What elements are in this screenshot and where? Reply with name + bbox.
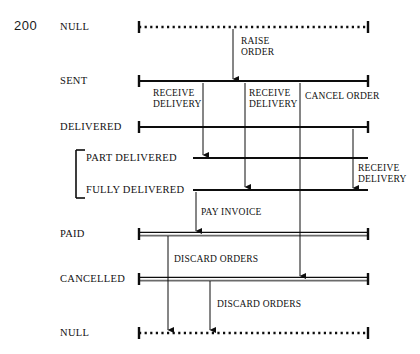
state-label-null-top: NULL bbox=[60, 21, 89, 32]
transition-label-raise-order: RAISE ORDER bbox=[241, 36, 274, 57]
state-line-delivered bbox=[139, 121, 368, 133]
part-fully-delivered-bracket bbox=[76, 150, 85, 198]
transition-label-receive-delivery-2: RECEIVE DELIVERY bbox=[249, 88, 298, 109]
diagram-canvas bbox=[0, 0, 420, 354]
transition-label-receive-delivery-1: RECEIVE DELIVERY bbox=[153, 88, 202, 109]
state-label-sent: SENT bbox=[60, 75, 87, 86]
transition-label-pay-invoice: PAY INVOICE bbox=[201, 207, 262, 218]
state-label-paid: PAID bbox=[60, 228, 85, 239]
state-label-part-delivered: PART DELIVERED bbox=[86, 152, 177, 163]
state-label-cancelled: CANCELLED bbox=[60, 273, 125, 284]
transition-label-discard-orders-2: DISCARD ORDERS bbox=[217, 299, 301, 310]
state-label-delivered: DELIVERED bbox=[60, 121, 122, 132]
grouping-bracket bbox=[76, 150, 85, 198]
state-transition-diagram: 200 NULLSENTDELIVEREDPART DELIVEREDFULLY… bbox=[0, 0, 420, 354]
state-label-fully-delivered: FULLY DELIVERED bbox=[86, 184, 184, 195]
state-line-cancelled bbox=[139, 273, 368, 285]
transition-label-discard-orders-1: DISCARD ORDERS bbox=[174, 254, 258, 265]
state-line-null-top bbox=[139, 21, 368, 33]
state-line-null-bottom bbox=[139, 327, 368, 339]
state-lines-group bbox=[139, 21, 368, 339]
transition-label-cancel-order: CANCEL ORDER bbox=[305, 91, 380, 102]
state-line-paid bbox=[139, 228, 368, 240]
state-line-sent bbox=[139, 75, 368, 87]
state-label-null-bottom: NULL bbox=[60, 327, 89, 338]
transition-label-receive-delivery-3: RECEIVE DELIVERY bbox=[358, 163, 407, 184]
transition-lines-group bbox=[168, 29, 353, 330]
page-number: 200 bbox=[14, 18, 37, 33]
